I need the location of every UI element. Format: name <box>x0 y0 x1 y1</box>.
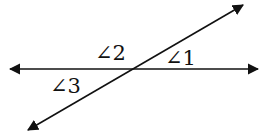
angle-2-label: ∠2 <box>95 41 126 65</box>
angle-diagram: ∠1 ∠2 ∠3 <box>0 0 263 140</box>
transversal-line <box>28 5 243 130</box>
angle-1-label: ∠1 <box>165 46 196 70</box>
angle-3-label: ∠3 <box>50 74 81 98</box>
